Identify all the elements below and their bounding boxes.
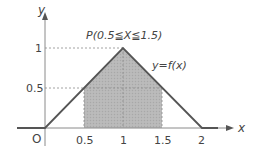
function-label: y=f(x) <box>151 59 187 72</box>
origin-label: O <box>32 132 41 146</box>
x-tick-0.5: 0.5 <box>76 134 94 147</box>
x-axis-arrow-icon <box>226 125 234 131</box>
chart-canvas: y x O 1 0.5 0.5 1 1.5 2 P(0.5≦X≦1.5) y=f… <box>0 0 255 152</box>
y-axis-label: y <box>37 3 46 17</box>
y-tick-1: 1 <box>35 42 42 55</box>
y-tick-0.5: 0.5 <box>26 82 44 95</box>
x-tick-2: 2 <box>198 134 205 147</box>
x-tick-1: 1 <box>120 134 127 147</box>
probability-label: P(0.5≦X≦1.5) <box>86 29 162 42</box>
x-axis-label: x <box>237 121 246 135</box>
x-tick-1.5: 1.5 <box>154 134 172 147</box>
